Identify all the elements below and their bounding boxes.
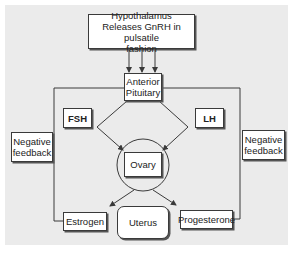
hypothalamus-box: Hypothalamus Releases GnRH in pulsatile … — [88, 14, 195, 49]
hypothalamus-subtitle-1: Releases GnRH in pulsatile — [89, 21, 194, 43]
negative-feedback-left-line1: Negative — [13, 136, 51, 147]
lh-path — [159, 101, 188, 150]
hypothalamus-subtitle-2: fashion — [126, 43, 157, 54]
progesterone-box: Progesterone — [180, 210, 233, 229]
negative-feedback-right-line2: feedback — [244, 145, 283, 156]
progesterone-arrow — [153, 190, 176, 205]
estrogen-arrow — [110, 190, 134, 206]
estrogen-box: Estrogen — [63, 212, 107, 231]
uterus-box: Uterus — [117, 206, 169, 239]
fsh-path — [97, 101, 127, 150]
negative-feedback-right-line1: Negative — [245, 134, 283, 145]
anterior-pituitary-label-1: Anterior — [126, 76, 159, 87]
progesterone-label: Progesterone — [178, 214, 235, 225]
fsh-box: FSH — [63, 108, 92, 128]
negative-feedback-right-box: Negative feedback — [242, 130, 285, 160]
ovary-label: Ovary — [130, 159, 155, 170]
anterior-pituitary-box: Anterior Pituitary — [124, 73, 162, 101]
ovary-box: Ovary — [124, 152, 162, 177]
negative-feedback-left-line2: feedback — [13, 147, 52, 158]
fsh-label: FSH — [68, 113, 87, 124]
lh-label: LH — [203, 113, 216, 124]
lh-box: LH — [195, 108, 224, 128]
anterior-pituitary-label-2: Pituitary — [126, 87, 160, 98]
uterus-label: Uterus — [129, 217, 157, 228]
negative-feedback-left-box: Negative feedback — [11, 132, 53, 162]
hypothalamus-label: Hypothalamus — [111, 10, 172, 21]
estrogen-label: Estrogen — [66, 216, 104, 227]
